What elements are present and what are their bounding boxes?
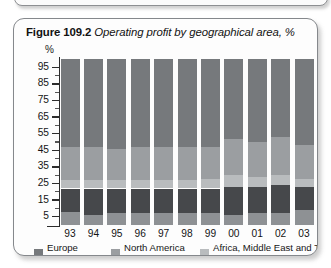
- y-tick-label-55: 55: [23, 128, 49, 138]
- y-tick-minor-10: [55, 208, 59, 209]
- y-tick-35: [52, 166, 59, 167]
- bar-segment-98-europe: [178, 59, 197, 147]
- y-tick-label-85: 85: [23, 78, 49, 88]
- legend-item-north-america[interactable]: North America: [111, 243, 185, 256]
- bar-segment-03-latin: [295, 210, 314, 225]
- y-tick-55: [52, 133, 59, 134]
- bar-97: [154, 59, 173, 225]
- y-tick-minor-40: [55, 158, 59, 159]
- bar-03: [295, 59, 314, 225]
- bar-segment-02-europe: [271, 59, 290, 137]
- bar-segment-96-europe: [131, 59, 150, 147]
- bar-segment-99-northamer: [201, 147, 220, 179]
- y-tick-85: [52, 83, 59, 84]
- bar-segment-99-africa: [201, 179, 220, 189]
- bar-segment-01-europe: [248, 59, 267, 142]
- bar-segment-96-asia: [131, 189, 150, 214]
- y-tick-label-35: 35: [23, 161, 49, 171]
- bar-94: [84, 59, 103, 225]
- y-tick-minor-60: [55, 125, 59, 126]
- y-tick-label-25: 25: [23, 178, 49, 188]
- y-tick-65: [52, 116, 59, 117]
- bar-95: [107, 59, 126, 225]
- y-tick-95: [52, 67, 59, 68]
- legend-item-europe[interactable]: Europe: [34, 243, 78, 256]
- x-axis-line: [47, 226, 59, 227]
- x-axis-label-94: 94: [82, 228, 104, 239]
- bar-segment-03-africa: [295, 179, 314, 187]
- x-axis-label-97: 97: [153, 228, 175, 239]
- y-tick-label-45: 45: [23, 145, 49, 155]
- y-tick-label-65: 65: [23, 112, 49, 122]
- y-tick-15: [52, 199, 59, 200]
- legend-label: Africa, Middle East and Turkey: [213, 243, 318, 253]
- x-axis-label-99: 99: [199, 228, 221, 239]
- bar-segment-02-asia: [271, 185, 290, 213]
- bar-segment-98-latin: [178, 213, 197, 225]
- bar-01: [248, 59, 267, 225]
- y-tick-minor-30: [55, 175, 59, 176]
- y-tick-minor-80: [55, 92, 59, 93]
- plot-area: [61, 59, 314, 225]
- bar-segment-93-northamer: [61, 147, 80, 180]
- legend-swatch-icon: [111, 249, 120, 256]
- bar-99: [201, 59, 220, 225]
- y-tick-minor-70: [55, 108, 59, 109]
- bar-segment-98-northamer: [178, 147, 197, 180]
- bar-segment-00-africa: [224, 175, 243, 187]
- y-tick-minor-90: [55, 75, 59, 76]
- bar-segment-01-asia: [248, 187, 267, 214]
- bar-segment-03-asia: [295, 187, 314, 210]
- bar-segment-99-asia: [201, 189, 220, 214]
- y-tick-label-75: 75: [23, 95, 49, 105]
- bar-segment-03-northamer: [295, 145, 314, 178]
- bar-segment-00-europe: [224, 59, 243, 139]
- legend-item-africa-middle-east-and-turkey[interactable]: Africa, Middle East and Turkey: [200, 243, 318, 256]
- y-tick-minor-20: [55, 191, 59, 192]
- bar-segment-95-latin: [107, 213, 126, 225]
- y-tick-25: [52, 183, 59, 184]
- bar-02: [271, 59, 290, 225]
- legend-label: North America: [124, 243, 185, 253]
- bar-segment-00-northamer: [224, 139, 243, 176]
- bar-segment-01-latin: [248, 213, 267, 225]
- y-tick-label-95: 95: [23, 62, 49, 72]
- y-tick-label-5: 5: [23, 211, 49, 221]
- bar-00: [224, 59, 243, 225]
- bar-segment-93-asia: [61, 189, 80, 212]
- bar-segment-00-asia: [224, 187, 243, 215]
- legend-label: Europe: [47, 243, 78, 253]
- bar-segment-94-europe: [84, 59, 103, 147]
- bar-segment-98-asia: [178, 189, 197, 214]
- x-axis-label-01: 01: [246, 228, 268, 239]
- bar-segment-93-europe: [61, 59, 80, 147]
- bar-segment-97-latin: [154, 213, 173, 225]
- bar-98: [178, 59, 197, 225]
- x-axis-label-98: 98: [176, 228, 198, 239]
- bar-segment-02-northamer: [271, 137, 290, 175]
- bar-segment-97-northamer: [154, 147, 173, 180]
- x-axis-label-02: 02: [270, 228, 292, 239]
- y-tick-label-15: 15: [23, 195, 49, 205]
- x-axis-label-03: 03: [293, 228, 315, 239]
- bar-segment-97-asia: [154, 189, 173, 214]
- y-tick-45: [52, 150, 59, 151]
- bar-segment-94-latin: [84, 215, 103, 225]
- bar-segment-94-africa: [84, 180, 103, 188]
- x-axis-label-93: 93: [59, 228, 81, 239]
- bar-segment-93-latin: [61, 212, 80, 225]
- bar-93: [61, 59, 80, 225]
- bar-segment-95-africa: [107, 180, 126, 188]
- x-axis-label-00: 00: [223, 228, 245, 239]
- bar-segment-95-northamer: [107, 149, 126, 181]
- x-axis-label-95: 95: [106, 228, 128, 239]
- bar-segment-97-africa: [154, 180, 173, 188]
- bar-segment-96-latin: [131, 213, 150, 225]
- figure-page: Figure 109.2 Operating profit by geograp…: [0, 0, 331, 268]
- x-axis-label-96: 96: [129, 228, 151, 239]
- bar-segment-98-africa: [178, 180, 197, 188]
- figure-container: Figure 109.2 Operating profit by geograp…: [13, 18, 318, 256]
- y-tick-minor-50: [55, 141, 59, 142]
- bar-segment-99-europe: [201, 59, 220, 147]
- bar-segment-01-northamer: [248, 142, 267, 177]
